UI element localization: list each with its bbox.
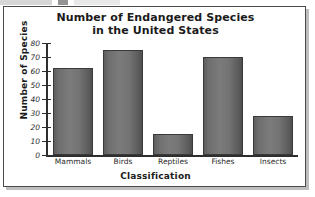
y-axis-tick: [42, 155, 51, 156]
scan-edge-artifact: [0, 0, 315, 5]
y-axis-tick-label: 50: [18, 81, 40, 90]
x-axis-tick-label: Mammals: [45, 157, 101, 166]
y-axis-tick-label: 30: [18, 109, 40, 118]
y-axis-tick-label: 70: [18, 53, 40, 62]
x-axis-tick-label: Insects: [245, 157, 301, 166]
y-axis-tick-label-wrap: 70: [14, 57, 40, 58]
y-axis-tick-label-wrap: 60: [14, 71, 40, 72]
y-axis-tick-label: 60: [18, 67, 40, 76]
y-axis-tick-label: 80: [18, 39, 40, 48]
y-axis-tick-label-wrap: 80: [14, 43, 40, 44]
y-axis-tick-label-wrap: 0: [14, 155, 40, 156]
x-axis-tick-label: Fishes: [195, 157, 251, 166]
bar-group: Mammals: [53, 43, 93, 155]
chart-title-line-2: in the United States: [4, 24, 307, 37]
x-axis-tick-label: Reptiles: [145, 157, 201, 166]
y-axis-tick-label-wrap: 50: [14, 85, 40, 86]
x-axis-title: Classification: [4, 171, 307, 181]
y-axis-tick-label: 0: [18, 151, 40, 160]
y-axis-tick-label-wrap: 40: [14, 99, 40, 100]
bar-series: MammalsBirdsReptilesFishesInsects: [48, 43, 298, 155]
bar[interactable]: [103, 50, 143, 155]
bar[interactable]: [203, 57, 243, 155]
bar-group: Birds: [103, 43, 143, 155]
bar-group: Insects: [253, 43, 293, 155]
x-axis-tick-label: Birds: [95, 157, 151, 166]
y-axis-tick-label: 10: [18, 137, 40, 146]
bar[interactable]: [53, 68, 93, 155]
bar-group: Reptiles: [153, 43, 193, 155]
bar[interactable]: [253, 116, 293, 155]
y-axis-tick-label: 40: [18, 95, 40, 104]
bar[interactable]: [153, 134, 193, 155]
y-axis-tick-label-wrap: 30: [14, 113, 40, 114]
y-axis-tick-label-wrap: 10: [14, 141, 40, 142]
y-axis-tick-label-wrap: 20: [14, 127, 40, 128]
chart-title: Number of Endangered Species in the Unit…: [4, 11, 307, 37]
chart-frame: Number of Endangered Species in the Unit…: [3, 6, 306, 187]
chart-title-line-1: Number of Endangered Species: [56, 11, 254, 24]
y-axis-tick-label: 20: [18, 123, 40, 132]
bar-group: Fishes: [203, 43, 243, 155]
